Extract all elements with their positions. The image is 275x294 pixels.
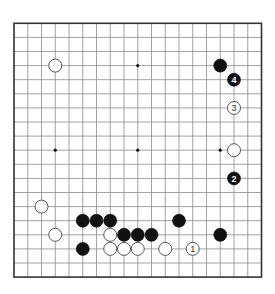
white-stone: [228, 144, 241, 157]
black-stone-move-4: 4: [228, 73, 241, 86]
white-stone-icon: [49, 59, 62, 72]
white-stone: [104, 242, 117, 255]
white-stone: [159, 242, 172, 255]
white-stone-move-1: 1: [186, 242, 199, 255]
black-stone: [131, 228, 144, 241]
white-stone: [118, 242, 131, 255]
white-stone-icon: [104, 242, 117, 255]
white-stone: [49, 59, 62, 72]
star-point: [54, 149, 57, 152]
black-stone: [145, 228, 158, 241]
white-stone-icon: [104, 228, 117, 241]
move-number: 3: [231, 103, 236, 113]
go-board: 4321: [0, 0, 275, 294]
move-number: 4: [231, 75, 236, 85]
black-stone: [76, 242, 89, 255]
black-stone-icon: [104, 214, 117, 227]
star-point: [136, 149, 139, 152]
white-stone-icon: [228, 144, 241, 157]
star-point: [136, 64, 139, 67]
black-stone: [104, 214, 117, 227]
black-stone-icon: [173, 214, 186, 227]
move-number: 2: [231, 174, 236, 184]
black-stone: [214, 59, 227, 72]
black-stone: [90, 214, 103, 227]
black-stone-icon: [76, 242, 89, 255]
black-stone-icon: [76, 214, 89, 227]
white-stone: [131, 242, 144, 255]
white-stone-icon: [159, 242, 172, 255]
white-stone: [104, 228, 117, 241]
black-stone-icon: [214, 228, 227, 241]
white-stone-icon: [49, 228, 62, 241]
move-number: 1: [190, 244, 195, 254]
white-stone-icon: [35, 200, 48, 213]
black-stone-move-2: 2: [228, 172, 241, 185]
black-stone: [173, 214, 186, 227]
white-stone-move-3: 3: [228, 101, 241, 114]
black-stone: [214, 228, 227, 241]
black-stone-icon: [131, 228, 144, 241]
white-stone: [35, 200, 48, 213]
white-stone-icon: [118, 242, 131, 255]
black-stone: [118, 228, 131, 241]
black-stone-icon: [118, 228, 131, 241]
white-stone-icon: [131, 242, 144, 255]
star-point: [219, 149, 222, 152]
white-stone: [49, 228, 62, 241]
black-stone-icon: [145, 228, 158, 241]
black-stone-icon: [90, 214, 103, 227]
black-stone-icon: [214, 59, 227, 72]
black-stone: [76, 214, 89, 227]
